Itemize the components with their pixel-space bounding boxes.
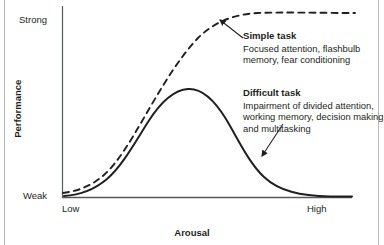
simple-task-annotation-line-2: memory, fear conditioning <box>243 54 360 66</box>
simple-task-annotation-title: Simple task <box>243 30 360 42</box>
x-axis-tick-low: Low <box>62 204 79 214</box>
y-axis-tick-weak: Weak <box>23 191 47 201</box>
difficult-task-annotation: Difficult task Impairment of divided att… <box>243 87 384 134</box>
simple-task-leader-arrow <box>220 20 243 38</box>
difficult-task-annotation-line-2: working memory, decision making <box>243 111 384 123</box>
difficult-task-annotation-line-3: and multitasking <box>243 123 384 135</box>
difficult-task-annotation-title: Difficult task <box>243 87 384 99</box>
yerkes-dodson-chart-figure: Strong Weak Low High Arousal Performance… <box>0 0 384 245</box>
y-axis-title: Performance <box>13 59 23 159</box>
y-axis-tick-strong: Strong <box>19 15 47 25</box>
simple-task-annotation-line-1: Focused attention, flashbulb <box>243 43 360 55</box>
simple-task-annotation: Simple task Focused attention, flashbulb… <box>243 30 360 66</box>
difficult-task-annotation-line-1: Impairment of divided attention, <box>243 100 384 112</box>
x-axis-tick-high: High <box>307 204 327 214</box>
x-axis-title: Arousal <box>0 228 384 238</box>
